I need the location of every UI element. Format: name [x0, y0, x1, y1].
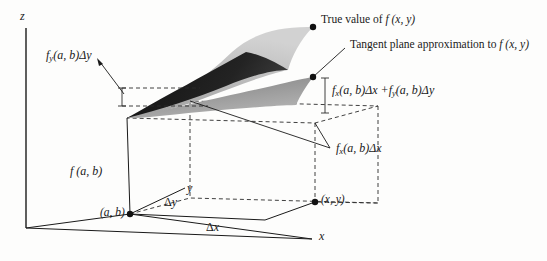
fy-rest: (a, b)Δy	[53, 48, 91, 62]
dot-point-ab	[127, 211, 133, 217]
leader-fx-lower	[315, 123, 330, 148]
height-fab-label: f (a, b)	[70, 165, 102, 177]
sum-term-label: fx(a, b)Δx +fy(a, b)Δy	[332, 84, 434, 98]
base-front-edges	[130, 202, 315, 220]
y-axis-label: y	[187, 182, 192, 194]
x-axis-label: x	[319, 230, 324, 242]
figure-canvas: z y x (a, b) (x, y) Δy Δx f (a, b) fy(a,…	[0, 0, 547, 261]
true-value-text: True value of	[321, 13, 383, 25]
sum-fy-rest: (a, b)Δy	[396, 83, 434, 97]
point-xy-label: (x, y)	[321, 194, 345, 206]
height-segment-fab	[127, 118, 130, 214]
leader-fx-upper	[190, 101, 330, 148]
tangent-plane-label: Tangent plane approximation to f (x, y)	[350, 39, 529, 51]
z-axis-label: z	[20, 10, 25, 22]
right-bracket	[321, 78, 329, 113]
ground-plane	[26, 214, 312, 239]
tangent-plane-function: f (x, y)	[499, 38, 529, 50]
true-value-function: f (x, y)	[385, 13, 415, 25]
delta-y-text: y	[172, 195, 177, 209]
delta-y-label: Δy	[164, 196, 177, 208]
fx-delta-x-label: fx(a, b)Δx	[336, 142, 382, 156]
delta-x-text: x	[214, 220, 219, 234]
dot-point-xy	[312, 199, 318, 205]
dot-true-value	[310, 24, 316, 30]
point-ab-label: (a, b)	[100, 207, 125, 219]
delta-x-label: Δx	[206, 221, 219, 233]
sum-fx-rest: (a, b)Δx +	[339, 83, 388, 97]
true-value-label: True value of f (x, y)	[321, 14, 415, 26]
base-rectangle	[130, 202, 315, 220]
dot-tangent-plane	[310, 74, 316, 80]
fy-delta-y-label: fy(a, b)Δy	[46, 49, 92, 63]
tangent-plane-text: Tangent plane approximation to	[350, 38, 496, 50]
fx-rest: (a, b)Δx	[343, 141, 381, 155]
leader-tangent-plane	[313, 48, 345, 77]
leader-fy	[100, 62, 124, 94]
